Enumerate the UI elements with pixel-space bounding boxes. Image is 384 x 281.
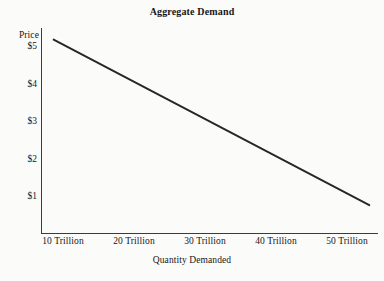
y-tick-label: $5	[4, 41, 37, 51]
y-axis-title: Price	[6, 30, 39, 40]
y-tick-label: $4	[4, 79, 37, 89]
x-tick-label: 10 Trillion	[27, 236, 99, 246]
aggregate-demand-chart: Aggregate Demand Price $5$4$3$2$1 10 Tri…	[0, 0, 384, 281]
chart-title: Aggregate Demand	[0, 6, 384, 17]
y-axis-line	[41, 28, 42, 234]
y-tick-label: $2	[4, 154, 37, 164]
y-tick-label: $1	[4, 191, 37, 201]
x-tick-label: 20 Trillion	[98, 236, 170, 246]
x-tick-label: 40 Trillion	[240, 236, 312, 246]
x-tick-label: 50 Trillion	[311, 236, 383, 246]
x-axis-title: Quantity Demanded	[0, 255, 384, 265]
demand-curve-line	[54, 40, 370, 206]
y-tick-label: $3	[4, 116, 37, 126]
x-tick-label: 30 Trillion	[169, 236, 241, 246]
x-axis-line	[41, 233, 378, 234]
